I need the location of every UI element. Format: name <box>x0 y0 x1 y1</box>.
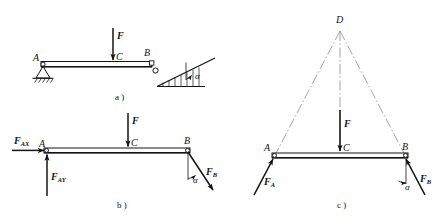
label-b-force-fb-base: F <box>206 166 213 177</box>
label-c-point-b: B <box>402 142 408 152</box>
label-b-force-fb: FB <box>206 167 217 177</box>
label-c-point-d: D <box>336 15 343 25</box>
label-a-force-f: F <box>117 31 124 41</box>
label-c-force-fb-sub: B <box>427 178 431 185</box>
panel-b <box>12 113 213 196</box>
label-c-force-fa: FA <box>264 177 275 187</box>
label-b-force-fay-base: F <box>51 171 58 182</box>
mechanics-figure <box>0 0 448 224</box>
label-c-point-a: A <box>264 143 270 153</box>
label-b-force-fax-base: F <box>14 135 21 146</box>
label-b-force-fax-sub: AX <box>21 140 30 147</box>
label-a-point-c: C <box>116 52 123 62</box>
label-c-force-f: F <box>344 119 351 129</box>
label-c-force-fa-base: F <box>264 176 271 187</box>
inclined-plane-a <box>150 58 216 87</box>
label-b-angle-alpha: α <box>193 176 198 185</box>
label-b-force-fay-sub: AY <box>58 176 66 183</box>
caption-panel-b: b ) <box>117 201 127 210</box>
label-a-point-a: A <box>33 53 39 63</box>
label-c-force-fb: FB <box>420 174 431 184</box>
label-c-angle-alpha: α <box>405 183 410 192</box>
label-b-point-c: C <box>131 138 138 148</box>
label-b-force-fax: FAX <box>14 136 29 146</box>
beam-c <box>272 153 408 158</box>
label-a-point-b: B <box>144 48 150 58</box>
label-b-point-b: B <box>184 136 190 146</box>
panel-c <box>254 31 425 195</box>
label-b-force-fb-sub: B <box>213 171 217 178</box>
beam-b <box>44 148 190 153</box>
caption-panel-a: a ) <box>115 93 124 102</box>
label-a-angle-alpha: α <box>195 72 200 81</box>
label-b-force-fay: FAY <box>51 172 66 182</box>
label-b-force-f: F <box>132 116 139 126</box>
label-b-point-a: A <box>39 139 45 149</box>
label-c-point-c: C <box>343 143 350 153</box>
label-c-force-fa-sub: A <box>271 181 275 188</box>
label-c-force-fb-base: F <box>420 173 427 184</box>
beam-a <box>41 62 152 67</box>
caption-panel-c: c ) <box>337 201 346 210</box>
